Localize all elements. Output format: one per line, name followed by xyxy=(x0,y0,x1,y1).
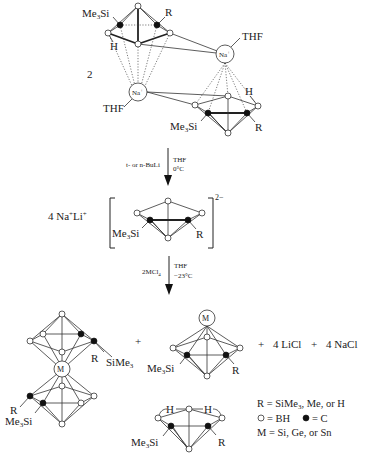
h-bottom-label: H xyxy=(245,85,253,97)
closo-metal-label: M xyxy=(202,314,209,323)
bottom-carborane-cage xyxy=(147,63,261,136)
sandwich-metal-label: M xyxy=(57,365,64,374)
legend-bh-symbol xyxy=(258,415,264,421)
sandwich-sime3-top: SiMe3 xyxy=(106,356,134,370)
nacl-product: 4 NaCl xyxy=(326,338,357,350)
coefficient-2: 2 xyxy=(87,68,93,80)
r-bottom-label: R xyxy=(255,121,263,133)
intermediate-me3si: Me3Si xyxy=(112,227,139,241)
intermediate-r: R xyxy=(196,228,204,240)
licl-product: 4 LiCl xyxy=(273,338,301,350)
h-top-label: H xyxy=(110,40,118,52)
plus-sign-3: + xyxy=(311,338,317,350)
step1-reagent: t- or n-BuLi xyxy=(126,161,160,169)
intermediate-coefficient: 4 Na+Li+ xyxy=(48,210,87,222)
closo-r: R xyxy=(232,364,240,376)
nido-me3si: Me3Si xyxy=(131,436,158,450)
nido-h-right: H xyxy=(204,403,212,415)
sandwich-me3si-bottom: Me3Si xyxy=(5,415,32,429)
step2-solvent: THF xyxy=(174,262,187,270)
charge-label: 2− xyxy=(215,193,224,202)
legend: R = SiMe3, Me, or H = BH = C M = Si, Ge,… xyxy=(257,398,345,438)
reaction-arrow-2: 2MCl4 THF −23°C xyxy=(142,256,193,295)
closo-metallacarborane: M Me3Si R xyxy=(147,310,243,379)
nido-carborane: H H Me3Si R xyxy=(131,403,226,452)
sandwich-r-top: R xyxy=(91,352,99,364)
step2-reagent: 2MCl4 xyxy=(142,268,161,277)
me3si-bottom-label: Me3Si xyxy=(170,120,197,134)
reaction-arrow-1: t- or n-BuLi THF 0°C xyxy=(126,148,186,186)
me3si-top-label: Me3Si xyxy=(82,7,109,21)
step2-temperature: −23°C xyxy=(174,272,193,280)
legend-c-symbol xyxy=(303,415,309,421)
legend-c-definition: = C xyxy=(312,413,328,424)
thf-right-label: THF xyxy=(242,30,263,42)
sandwich-product: R SiMe3 M R Me3Si xyxy=(5,311,134,429)
legend-bh-definition: = BH xyxy=(267,413,291,424)
closo-me3si: Me3Si xyxy=(147,362,174,376)
reactant-dimer: Me3Si R H Na+ THF Na+ THF 2 xyxy=(82,3,263,136)
nido-r: R xyxy=(218,436,226,448)
thf-left-label: THF xyxy=(103,102,124,114)
plus-sign-1: + xyxy=(135,335,141,347)
dianion-intermediate: 4 Na+Li+ 2− Me3Si R xyxy=(48,193,224,248)
legend-r-definition: R = SiMe3, Me, or H xyxy=(257,398,345,411)
step1-temperature: 0°C xyxy=(173,165,184,173)
plus-sign-2: + xyxy=(258,338,264,350)
legend-m-definition: M = Si, Ge, or Sn xyxy=(257,427,332,438)
reaction-scheme: Me3Si R H Na+ THF Na+ THF 2 xyxy=(0,0,366,469)
nido-h-left: H xyxy=(166,403,174,415)
r-top-label: R xyxy=(165,6,173,18)
step1-solvent: THF xyxy=(173,156,186,164)
